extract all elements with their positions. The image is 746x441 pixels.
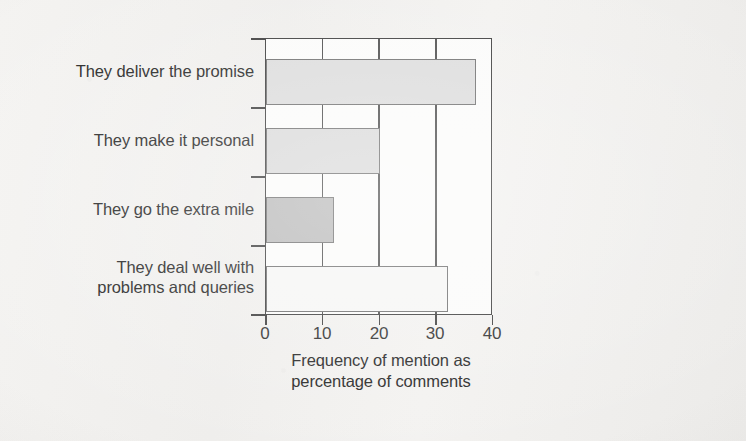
bar-1: [266, 128, 380, 174]
category-label-3: They deal well with problems and queries: [97, 257, 254, 297]
y-axis-tick-0: [251, 38, 266, 40]
plot-frame: [265, 38, 492, 315]
bar-chart: They deliver the promise They make it pe…: [0, 0, 746, 441]
bar-3: [266, 266, 448, 312]
bar-0: [266, 59, 476, 105]
x-axis-label-40: 40: [472, 324, 512, 344]
x-axis-label-10: 10: [302, 324, 342, 344]
x-axis-title: Frequency of mention as percentage of co…: [236, 350, 526, 392]
category-label-0: They deliver the promise: [76, 61, 254, 81]
x-axis-label-30: 30: [415, 324, 455, 344]
category-label-1: They make it personal: [94, 130, 254, 150]
y-axis-tick-2: [251, 176, 266, 178]
y-axis-tick-1: [251, 107, 266, 109]
y-axis-tick-3: [251, 245, 266, 247]
x-axis-label-20: 20: [359, 324, 399, 344]
category-label-2: They go the extra mile: [93, 199, 254, 219]
y-axis-tick-4: [251, 314, 266, 316]
x-axis-label-0: 0: [245, 324, 285, 344]
bar-2: [266, 197, 334, 243]
